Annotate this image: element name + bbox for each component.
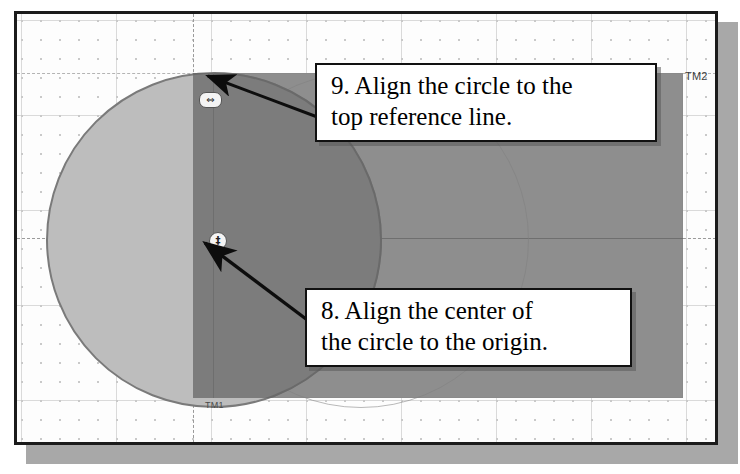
callout-step-8[interactable]: 8. Align the center of the circle to the…: [305, 288, 632, 367]
callout-9-line-1: 9. Align the circle to the: [331, 71, 643, 102]
snap-icon-glyph: ⇔: [206, 95, 214, 105]
callout-8-line-2: the circle to the origin.: [321, 327, 618, 358]
datum-label-1: TM1: [205, 400, 224, 410]
origin-icon-glyph: ‡: [216, 236, 221, 246]
callout-step-9[interactable]: 9. Align the circle to the top reference…: [315, 63, 657, 142]
callout-9-line-2: top reference line.: [331, 102, 643, 133]
callout-8-line-1: 8. Align the center of: [321, 296, 618, 327]
origin-point-icon[interactable]: ‡: [209, 232, 227, 250]
datum-label-2: TM2: [685, 70, 708, 82]
horizontal-arrow-snap-icon[interactable]: ⇔: [199, 92, 222, 108]
cad-instruction-figure: ⇔ ‡ TM2 TM1 9. Align the circle to the t…: [0, 0, 740, 474]
